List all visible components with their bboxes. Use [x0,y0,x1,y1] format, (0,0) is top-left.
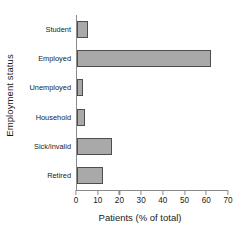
bar-series [77,15,228,190]
x-axis-title: Patients (% of total) [40,212,240,223]
x-tick-label-60: 60 [202,196,211,205]
y-axis-tick-labels: Student Employed Unemployed Household Si… [18,15,74,190]
x-tick-20 [119,190,120,195]
x-tick-10 [97,190,98,195]
bar-student [77,21,88,38]
x-tick-30 [141,190,142,195]
x-tick-40 [162,190,163,195]
x-tick-label-20: 20 [115,196,124,205]
bar-slot-student [77,15,228,44]
x-tick-label-50: 50 [180,196,189,205]
x-tick-label-0: 0 [74,196,79,205]
y-tick-label-unemployed: Unemployed [18,73,74,102]
y-axis-title-text: Employment status [4,54,15,136]
x-tick-label-40: 40 [158,196,167,205]
bar-employed [77,50,211,67]
y-tick-label-employed: Employed [18,44,74,73]
x-axis-ticks [76,190,228,195]
bar-chart: Employment status Student Employed Unemp… [0,0,250,238]
y-tick-label-household: Household [18,103,74,132]
y-axis-title: Employment status [0,0,18,190]
plot-area [76,15,228,190]
bar-sick-invalid [77,138,112,155]
bar-unemployed [77,79,83,96]
y-tick-label-retired: Retired [18,161,74,190]
bar-slot-employed [77,44,228,73]
x-tick-70 [227,190,228,195]
bar-slot-retired [77,161,228,190]
x-tick-label-30: 30 [137,196,146,205]
x-axis-tick-labels: 010203040506070 [76,196,228,208]
x-tick-50 [184,190,185,195]
bar-household [77,109,85,126]
bar-slot-household [77,103,228,132]
x-tick-60 [206,190,207,195]
bar-slot-sick-invalid [77,132,228,161]
bar-slot-unemployed [77,73,228,102]
y-tick-label-student: Student [18,15,74,44]
x-tick-label-70: 70 [223,196,232,205]
x-tick-0 [75,190,76,195]
y-tick-label-sick-invalid: Sick/invalid [18,132,74,161]
x-tick-label-10: 10 [93,196,102,205]
bar-retired [77,167,103,184]
